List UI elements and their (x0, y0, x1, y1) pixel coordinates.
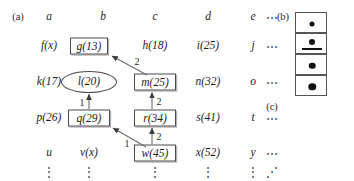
node-l[interactable]: l(20) (61, 71, 117, 93)
bottom-ellipsis-col-d: ⋮ (202, 165, 214, 180)
panel-b-dot-1 (310, 21, 315, 26)
arrow-weight-w-to-q: 1 (125, 138, 130, 149)
bottom-ellipsis-col-a: ⋮ (43, 165, 55, 180)
column-header-c: c (152, 11, 157, 23)
panel-b-dot-2 (309, 39, 315, 45)
node-x: x(52) (196, 147, 220, 159)
panel-b-bar-2 (302, 48, 322, 50)
node-s: s(41) (196, 112, 220, 124)
column-header-d: d (205, 11, 211, 23)
column-header-b: b (100, 11, 106, 23)
panel-b-stack (295, 12, 327, 96)
bottom-ellipsis-col-e: ⋮ (247, 165, 259, 180)
node-k: k(17) (37, 76, 61, 88)
node-m[interactable]: m(25) (134, 74, 176, 91)
panel-b-cell-1[interactable] (295, 12, 327, 33)
arrow-weight-w-to-r: 2 (157, 131, 162, 142)
node-r[interactable]: r(34) (134, 110, 176, 127)
node-j: j (251, 40, 254, 52)
row-2-ellipsis: ⋯ (266, 76, 279, 91)
node-y: y (250, 147, 255, 159)
bottom-ellipsis-col-b: ⋮ (83, 165, 95, 180)
panel-c-wrap (288, 104, 354, 181)
node-u: u (46, 147, 52, 159)
panel-b-cell-4[interactable] (295, 75, 327, 96)
bottom-diagonal-ellipsis: ⋰ (266, 165, 278, 180)
row-4-ellipsis: ⋯ (266, 147, 279, 162)
figure-root: (a) a b c d e ⋯ f(x) g(13) h(18) i(25) j… (0, 0, 354, 181)
node-g[interactable]: g(13) (70, 38, 108, 55)
node-t: t (251, 112, 254, 124)
panel-b-cell-3[interactable] (295, 54, 327, 75)
node-n: n(32) (196, 76, 221, 88)
panel-b-dot-3 (309, 62, 316, 69)
column-header-a: a (46, 11, 52, 23)
panel-a-label: (a) (12, 12, 24, 23)
node-o: o (250, 76, 256, 88)
node-w[interactable]: w(45) (134, 145, 176, 162)
row-1-ellipsis: ⋯ (266, 40, 279, 55)
node-h: h(18) (143, 40, 168, 52)
node-f: f(x) (41, 40, 57, 52)
arrow-weight-r-to-m: 2 (157, 96, 162, 107)
row-3-ellipsis: ⋯ (266, 112, 279, 127)
panel-b-dot-4 (308, 83, 316, 91)
arrow-weight-m-to-g: 2 (135, 56, 140, 67)
node-i: i(25) (197, 40, 219, 52)
column-header-e: e (250, 11, 255, 23)
panel-c-label: (c) (266, 102, 278, 113)
panel-b-label: (b) (277, 12, 289, 23)
panel-b-cell-2[interactable] (295, 33, 327, 54)
bottom-ellipsis-col-c: ⋮ (149, 165, 161, 180)
node-v: v(x) (80, 147, 98, 159)
node-p: p(26) (37, 112, 62, 124)
node-q[interactable]: q(29) (68, 110, 110, 127)
arrow-weight-q-to-l: 1 (80, 97, 85, 108)
arrow-m-to-g (112, 56, 147, 75)
